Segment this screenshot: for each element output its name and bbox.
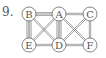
svg-text:E: E (25, 40, 32, 51)
svg-text:B: B (25, 9, 32, 20)
node-D: D (52, 38, 66, 52)
node-A: A (52, 7, 66, 21)
svg-text:F: F (87, 40, 94, 51)
multigraph-diagram: BACEDF (0, 0, 106, 58)
node-C: C (83, 7, 97, 21)
node-B: B (22, 7, 36, 21)
svg-text:D: D (55, 40, 63, 51)
node-E: E (22, 38, 36, 52)
svg-text:C: C (86, 9, 94, 20)
svg-text:A: A (54, 9, 63, 20)
node-F: F (83, 38, 97, 52)
